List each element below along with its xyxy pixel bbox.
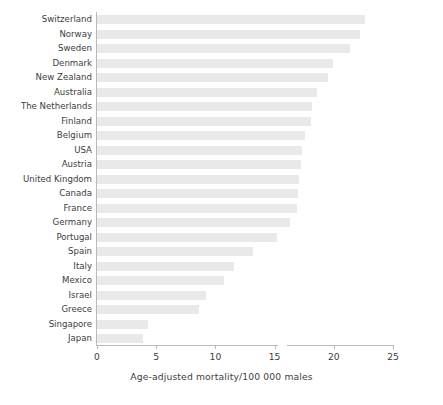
x-tick-label: 20 [314,351,354,362]
bar [97,131,305,140]
x-tick-label: 10 [195,351,235,362]
x-tick-label: 15 [255,351,295,362]
bar-row: Sweden [0,41,443,56]
x-tick-mark [156,345,157,349]
bar-row: Germany [0,215,443,230]
category-label: Israel [0,288,92,303]
bar [97,30,360,39]
bar [97,117,311,126]
bar-row: New Zealand [0,70,443,85]
category-label: Japan [0,331,92,346]
bar [97,247,253,256]
x-tick-label: 5 [136,351,176,362]
x-tick-label: 25 [373,351,413,362]
bar-row: Mexico [0,273,443,288]
bar-row: The Netherlands [0,99,443,114]
x-tick-mark [215,345,216,349]
x-tick-mark [334,345,335,349]
category-label: Austria [0,157,92,172]
x-tick-label: 0 [77,351,117,362]
category-label: New Zealand [0,70,92,85]
bar-row: Singapore [0,317,443,332]
bar [97,291,206,300]
category-label: The Netherlands [0,99,92,114]
bar [97,73,328,82]
bar [97,233,277,242]
category-label: USA [0,143,92,158]
bar [97,102,312,111]
bar-row: Australia [0,85,443,100]
bar [97,146,302,155]
bar [97,218,290,227]
bar [97,88,317,97]
bar-row: Finland [0,114,443,129]
bar [97,59,333,68]
category-label: Switzerland [0,12,92,27]
bar-chart: SwitzerlandNorwaySwedenDenmarkNew Zealan… [0,0,443,405]
bar-row: Israel [0,288,443,303]
bar-row: United Kingdom [0,172,443,187]
plot-area: SwitzerlandNorwaySwedenDenmarkNew Zealan… [0,0,443,358]
category-label: United Kingdom [0,172,92,187]
category-label: Belgium [0,128,92,143]
bar [97,204,297,213]
category-label: Italy [0,259,92,274]
bar [97,276,224,285]
category-label: Canada [0,186,92,201]
category-label: Denmark [0,56,92,71]
category-label: Norway [0,27,92,42]
bar-row: Canada [0,186,443,201]
x-axis-title: Age-adjusted mortality/100 000 males [0,371,443,382]
category-label: Sweden [0,41,92,56]
category-label: France [0,201,92,216]
bar [97,262,234,271]
category-label: Spain [0,244,92,259]
bar [97,160,301,169]
bar [97,334,143,343]
bar-row: Belgium [0,128,443,143]
bar-row: Switzerland [0,12,443,27]
bar [97,175,299,184]
x-tick-mark [275,345,276,349]
x-tick-mark [393,345,394,349]
category-label: Portugal [0,230,92,245]
bar [97,15,365,24]
bar [97,320,148,329]
bar-row: Denmark [0,56,443,71]
bar-row: Austria [0,157,443,172]
category-label: Germany [0,215,92,230]
bar [97,44,350,53]
bar-row: Greece [0,302,443,317]
category-label: Australia [0,85,92,100]
bar-row: Portugal [0,230,443,245]
category-label: Greece [0,302,92,317]
x-tick-mark [97,345,98,349]
bar-row: Italy [0,259,443,274]
bar-row: Norway [0,27,443,42]
bar [97,305,199,314]
bar-row: Spain [0,244,443,259]
category-label: Finland [0,114,92,129]
bar-row: Japan [0,331,443,346]
category-label: Mexico [0,273,92,288]
category-label: Singapore [0,317,92,332]
bar [97,189,298,198]
bar-row: USA [0,143,443,158]
bar-row: France [0,201,443,216]
